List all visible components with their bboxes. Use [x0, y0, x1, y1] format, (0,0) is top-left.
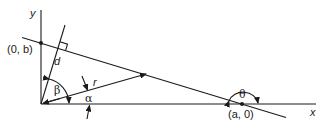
point-y-intercept	[39, 41, 43, 45]
x-axis-label: x	[310, 107, 316, 118]
alpha-pointer-bottom	[87, 106, 90, 120]
y-intercept-label: (0, b)	[7, 44, 33, 55]
line-normal-form-diagram: y x (0, b) (a, 0) d r β α θ	[0, 0, 328, 129]
beta-label: β	[54, 85, 60, 96]
distance-label: d	[54, 56, 60, 67]
y-axis-label: y	[30, 8, 36, 19]
alpha-pointer-top	[82, 76, 88, 90]
radius-label: r	[93, 77, 97, 88]
diagram-canvas	[0, 0, 328, 129]
normal-line	[41, 25, 65, 104]
alpha-label: α	[85, 93, 92, 104]
x-intercept-label: (a, 0)	[228, 109, 254, 120]
point-x-intercept	[240, 102, 244, 106]
r-vector-tail-arrow	[43, 99, 60, 104]
main-line	[22, 38, 286, 118]
theta-label: θ	[239, 89, 246, 100]
